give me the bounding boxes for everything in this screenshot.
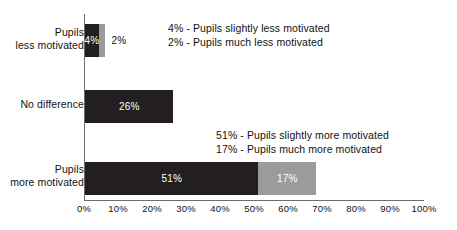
bar-segment-value: 26%: [119, 101, 140, 112]
bar-segment-value: 2%: [111, 35, 126, 46]
bar-segment-value: 51%: [161, 173, 182, 184]
x-axis-tick-label: 70%: [312, 203, 332, 214]
x-axis-tick-label: 40%: [210, 203, 230, 214]
bar-segment-slightly: 51%: [85, 162, 258, 195]
category-label-line: Pupils: [0, 163, 84, 176]
bar-segment-value: 4%: [84, 35, 99, 46]
annotation-line: 2% - Pupils much less motivated: [168, 35, 330, 49]
bar-segment-much: 17%: [258, 162, 316, 195]
bar-segment-much: 2%: [99, 24, 106, 57]
category-label-no-difference: No difference: [0, 98, 84, 111]
bar-segment-slightly: 26%: [85, 90, 173, 123]
x-axis-tick-label: 90%: [380, 203, 400, 214]
annotation-less-motivated: 4% - Pupils slightly less motivated 2% -…: [168, 21, 330, 49]
x-axis-tick-label: 60%: [278, 203, 298, 214]
annotation-more-motivated: 51% - Pupils slightly more motivated 17%…: [216, 128, 389, 156]
x-axis-tick-label: 20%: [142, 203, 162, 214]
category-label-pupils-less-motivated: Pupils less motivated: [0, 26, 84, 52]
x-axis-tick-label: 0%: [77, 203, 91, 214]
x-axis-tick-label: 50%: [244, 203, 264, 214]
table-row: 4% 2%: [85, 24, 105, 57]
category-label-line: No difference: [0, 98, 84, 111]
bar-chart: Pupils less motivated No difference Pupi…: [0, 0, 457, 230]
x-axis-line: [84, 200, 424, 201]
annotation-line: 17% - Pupils much more motivated: [216, 142, 389, 156]
category-label-pupils-more-motivated: Pupils more motivated: [0, 163, 84, 189]
x-axis-tick-label: 10%: [108, 203, 128, 214]
annotation-line: 4% - Pupils slightly less motivated: [168, 21, 330, 35]
category-label-line: Pupils: [0, 26, 84, 39]
x-axis-tick-label: 80%: [346, 203, 366, 214]
annotation-line: 51% - Pupils slightly more motivated: [216, 128, 389, 142]
bar-segment-slightly: 4%: [85, 24, 99, 57]
table-row: 26%: [85, 90, 173, 123]
x-axis-tick-labels: 0%10%20%30%40%50%60%70%80%90%100%: [84, 203, 424, 219]
category-label-line: less motivated: [0, 39, 84, 52]
bar-segment-value: 17%: [277, 173, 298, 184]
x-axis-tick-label: 100%: [411, 203, 436, 214]
table-row: 51% 17%: [85, 162, 316, 195]
x-axis-tick-label: 30%: [176, 203, 196, 214]
category-label-line: more motivated: [0, 176, 84, 189]
